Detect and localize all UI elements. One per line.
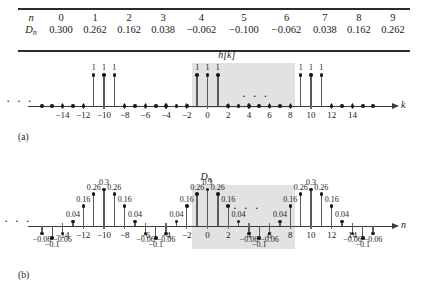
stem-line bbox=[217, 75, 218, 106]
stem-line bbox=[310, 75, 311, 106]
axis-label: k bbox=[401, 99, 405, 110]
table-row: n 0 1 2 3 4 5 6 7 8 9 bbox=[18, 11, 410, 23]
stem-marker bbox=[216, 73, 220, 77]
zero-marker bbox=[257, 104, 261, 108]
stem-line bbox=[186, 206, 187, 226]
tick-label: 14 bbox=[337, 110, 367, 120]
cell: 0.300 bbox=[44, 23, 78, 37]
stem-marker bbox=[92, 73, 96, 77]
table-bottom-rule bbox=[18, 50, 410, 52]
zero-marker bbox=[71, 104, 75, 108]
stem-value-label: 0.26 bbox=[100, 183, 128, 192]
stem-marker bbox=[113, 73, 117, 77]
table-body: n 0 1 2 3 4 5 6 7 8 9 Dn 0.300 0.262 0.1… bbox=[18, 11, 410, 37]
cell: 0.262 bbox=[78, 23, 112, 37]
row-header-n: n bbox=[18, 11, 44, 23]
stem-line bbox=[290, 206, 291, 226]
stem-line bbox=[93, 194, 94, 226]
stem-line bbox=[103, 75, 104, 106]
stem-value-label: −0.06 bbox=[359, 235, 387, 244]
stem-line bbox=[300, 194, 301, 226]
panel-b-coefficients: Dnn−14−12−10−8−6−4−202468101214· · ·· · … bbox=[0, 158, 424, 286]
cell: 9 bbox=[376, 11, 410, 23]
stem-marker bbox=[299, 73, 303, 77]
stem-line bbox=[321, 75, 322, 106]
cell: −0.062 bbox=[180, 23, 223, 37]
table-grid: n 0 1 2 3 4 5 6 7 8 9 Dn 0.300 0.262 0.1… bbox=[18, 11, 410, 37]
row-header-dn: Dn bbox=[18, 23, 44, 37]
zero-marker bbox=[351, 104, 355, 108]
stem-marker bbox=[133, 220, 137, 224]
stem-value-label: 0.04 bbox=[225, 210, 253, 219]
zero-marker bbox=[50, 104, 54, 108]
inner-ellipsis-a: · · · bbox=[242, 89, 270, 102]
stem-marker bbox=[206, 73, 210, 77]
cell: −0.100 bbox=[223, 23, 266, 37]
stem-line bbox=[207, 75, 208, 106]
stem-value-label: 0.04 bbox=[121, 210, 149, 219]
row-header-dn-text: D bbox=[25, 24, 33, 35]
row-header-n-text: n bbox=[28, 12, 33, 23]
panel-a-impulse-train: h[k]k−14−12−10−8−6−4−202468101214· · ·· … bbox=[0, 58, 424, 148]
cell: −0.062 bbox=[265, 23, 308, 37]
stem-line bbox=[93, 75, 94, 106]
stem-line bbox=[310, 189, 311, 226]
stem-value-label: 0.26 bbox=[204, 183, 232, 192]
stem-marker bbox=[123, 204, 127, 208]
zero-marker bbox=[185, 104, 189, 108]
plot-area-a: h[k]k−14−12−10−8−6−4−202468101214· · ·· … bbox=[0, 58, 424, 148]
stem-marker bbox=[195, 73, 199, 77]
zero-marker bbox=[289, 104, 293, 108]
stem-line bbox=[196, 194, 197, 226]
zero-marker bbox=[40, 104, 44, 108]
axis-label: n bbox=[401, 219, 406, 230]
stem-line bbox=[103, 189, 104, 226]
cell: 2 bbox=[112, 11, 146, 23]
cell: 0.038 bbox=[146, 23, 180, 37]
cell: 1 bbox=[78, 11, 112, 23]
stem-marker bbox=[71, 220, 75, 224]
stem-marker bbox=[340, 220, 344, 224]
zero-marker bbox=[226, 104, 230, 108]
stem-marker bbox=[102, 73, 106, 77]
table-row: Dn 0.300 0.262 0.162 0.038 −0.062 −0.100… bbox=[18, 23, 410, 37]
leading-ellipsis-a: · · · bbox=[6, 94, 34, 107]
stem-line bbox=[300, 75, 301, 106]
stem-value-label: −0.06 bbox=[152, 235, 180, 244]
plot-area-b: Dnn−14−12−10−8−6−4−202468101214· · ·· · … bbox=[0, 158, 424, 286]
leading-ellipsis-b: · · · bbox=[4, 214, 32, 227]
zero-marker bbox=[164, 104, 168, 108]
stem-marker bbox=[185, 204, 189, 208]
stem-value-label: −0.06 bbox=[256, 235, 284, 244]
zero-marker bbox=[247, 104, 251, 108]
cell: 0.162 bbox=[342, 23, 376, 37]
zero-marker bbox=[278, 104, 282, 108]
cell: 5 bbox=[223, 11, 266, 23]
stem-value-label: 1 bbox=[104, 63, 124, 72]
cell: 0.038 bbox=[308, 23, 342, 37]
zero-marker bbox=[144, 104, 148, 108]
stem-marker bbox=[320, 73, 324, 77]
stem-line bbox=[207, 189, 208, 226]
stem-marker bbox=[175, 220, 179, 224]
zero-marker bbox=[133, 104, 137, 108]
cell: 0.262 bbox=[376, 23, 410, 37]
stem-marker bbox=[278, 220, 282, 224]
row-header-dn-subscript: n bbox=[33, 27, 37, 36]
cell: 8 bbox=[342, 11, 376, 23]
panel-a-caption: (a) bbox=[18, 132, 29, 142]
stem-line bbox=[114, 75, 115, 106]
axis-arrow-icon bbox=[392, 103, 399, 109]
zero-marker bbox=[154, 104, 158, 108]
cell: 4 bbox=[180, 11, 223, 23]
stem-value-label: 0.04 bbox=[328, 210, 356, 219]
zero-marker bbox=[361, 104, 365, 108]
stem-marker bbox=[330, 204, 334, 208]
zero-marker bbox=[371, 104, 375, 108]
cell: 7 bbox=[308, 11, 342, 23]
coefficient-table: n 0 1 2 3 4 5 6 7 8 9 Dn 0.300 0.262 0.1… bbox=[18, 8, 410, 52]
zero-marker bbox=[82, 104, 86, 108]
stem-value-label: 0.26 bbox=[307, 183, 335, 192]
panel-b-caption: (b) bbox=[18, 270, 29, 280]
zero-marker bbox=[237, 104, 241, 108]
